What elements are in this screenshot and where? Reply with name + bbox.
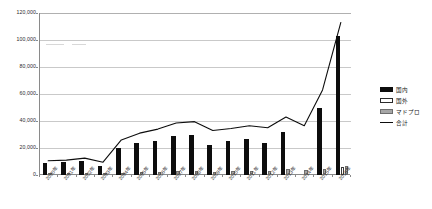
legend-label-foreign: 国外 [396,98,408,104]
y-tick-mark [36,13,38,14]
x-tick-mark [112,175,113,177]
x-tick-mark [94,175,95,177]
y-tick-label-120000: 120,000 [2,10,36,15]
x-tick-mark [185,175,186,177]
y-tick-mark [36,67,38,68]
legend-label-domestic: 国内 [396,87,408,93]
legend-item-foreign[interactable]: 国外 [380,95,432,106]
chart-legend: 国内 国外 マドプロ 合計 [380,84,432,128]
x-tick-mark [222,175,223,177]
x-tick-mark [295,175,296,177]
x-tick-mark [240,175,241,177]
x-tick-mark [332,175,333,177]
y-tick-mark [36,175,38,176]
y-axis: 020,00040,00060,00080,000100,000120,000 [0,13,36,175]
y-tick-label-80000: 80,000 [2,64,36,69]
total-line-series [39,13,350,175]
legend-item-total[interactable]: 合計 [380,117,432,128]
x-tick-mark [149,175,150,177]
x-tick-mark [350,175,351,177]
y-tick-mark [36,40,38,41]
x-tick-mark [57,175,58,177]
y-tick-label-0: 0 [2,172,36,177]
chart-container: 020,00040,00060,00080,000100,000120,000 … [0,0,432,209]
legend-item-domestic[interactable]: 国内 [380,84,432,95]
y-tick-mark [36,94,38,95]
x-tick-mark [313,175,314,177]
x-tick-mark [39,175,40,177]
legend-label-madopro: マドプロ [396,109,420,115]
y-tick-label-100000: 100,000 [2,37,36,42]
y-tick-mark [36,121,38,122]
legend-label-total: 合計 [396,120,408,126]
x-tick-mark [76,175,77,177]
legend-swatch-madopro [380,109,393,114]
y-tick-label-20000: 20,000 [2,145,36,150]
legend-item-madopro[interactable]: マドプロ [380,106,432,117]
y-tick-mark [36,148,38,149]
x-tick-mark [277,175,278,177]
y-tick-label-40000: 40,000 [2,118,36,123]
legend-swatch-domestic [380,87,393,92]
x-tick-mark [131,175,132,177]
legend-swatch-total [380,120,393,125]
x-tick-mark [204,175,205,177]
legend-swatch-foreign [380,98,393,103]
x-tick-mark [259,175,260,177]
x-tick-mark [167,175,168,177]
y-tick-label-60000: 60,000 [2,91,36,96]
